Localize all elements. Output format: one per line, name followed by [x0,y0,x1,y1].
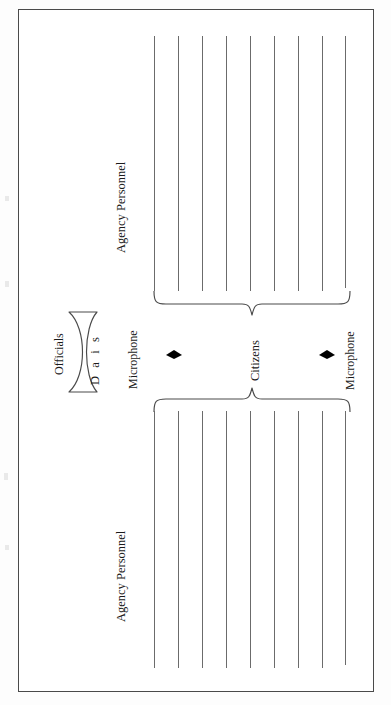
brace-bottom [152,386,352,412]
seat-row [226,36,227,291]
seat-row [250,36,251,291]
scan-speckle [4,473,8,480]
seat-row [298,36,299,291]
seat-row [345,411,346,665]
diagram-frame: Officials D a i s Microphone Citizens Mi… [18,9,374,692]
scan-speckle [5,281,9,287]
seat-row [202,36,203,291]
seat-row [298,411,299,668]
seat-row [154,36,155,291]
scan-speckle [5,545,9,550]
microphone-marker-left [166,355,182,359]
scan-canvas: Officials D a i s Microphone Citizens Mi… [0,0,391,705]
seat-row [345,36,346,288]
seat-row [250,411,251,668]
microphone-label-right: Microphone [344,331,356,390]
seat-row [274,411,275,668]
agency-personnel-label-bottom: Agency Personnel [115,531,128,622]
seating-block-bottom [19,411,373,668]
seat-row [202,411,203,668]
seating-block-top [19,36,373,291]
citizens-label: Citizens [249,340,262,381]
seat-row [178,36,179,291]
brace-top [152,291,352,317]
seat-row [274,36,275,291]
seat-row [154,411,155,668]
microphone-label-left: Microphone [127,330,139,389]
microphone-marker-right [319,355,335,359]
agency-personnel-label-top: Agency Personnel [115,162,128,253]
dais-label: D a i s [89,335,102,386]
seat-row [178,411,179,668]
seat-row [322,36,323,291]
seat-row [226,411,227,668]
seat-row [322,411,323,668]
scan-speckle [5,196,9,201]
